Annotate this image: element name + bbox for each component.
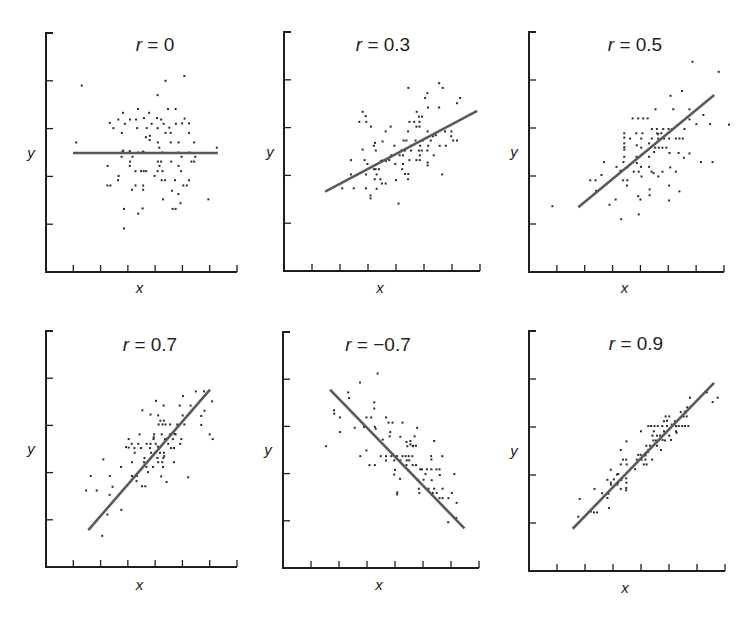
data-point bbox=[125, 446, 127, 448]
data-point bbox=[662, 439, 664, 441]
data-point bbox=[664, 439, 666, 441]
panel-title: r = −0.7 bbox=[345, 334, 411, 355]
data-point bbox=[439, 145, 441, 147]
data-point bbox=[135, 119, 137, 121]
data-point bbox=[207, 198, 209, 200]
data-point bbox=[156, 457, 158, 459]
data-point bbox=[129, 165, 131, 167]
data-point bbox=[577, 516, 579, 518]
data-point bbox=[156, 117, 158, 119]
data-point bbox=[165, 132, 167, 134]
data-point bbox=[394, 469, 396, 471]
data-point bbox=[134, 184, 136, 186]
data-point bbox=[644, 459, 646, 461]
data-point bbox=[168, 127, 170, 129]
data-point bbox=[681, 425, 683, 427]
data-point bbox=[606, 497, 608, 499]
data-point bbox=[688, 118, 690, 120]
data-point bbox=[663, 420, 665, 422]
data-point bbox=[681, 90, 683, 92]
data-point bbox=[665, 147, 667, 149]
data-point bbox=[194, 156, 196, 158]
data-point bbox=[653, 172, 655, 174]
data-point bbox=[146, 127, 148, 129]
data-point bbox=[145, 136, 147, 138]
data-point bbox=[444, 130, 446, 132]
data-point bbox=[675, 425, 677, 427]
data-point bbox=[157, 414, 159, 416]
data-point bbox=[145, 170, 147, 172]
data-point bbox=[441, 173, 443, 175]
data-point bbox=[134, 452, 136, 454]
scatter-panel: r = 0yx bbox=[26, 33, 237, 296]
data-point bbox=[188, 132, 190, 134]
data-point bbox=[638, 213, 640, 215]
data-point bbox=[450, 130, 452, 132]
data-point bbox=[353, 187, 355, 189]
data-point bbox=[459, 97, 461, 99]
data-point bbox=[160, 475, 162, 477]
data-point bbox=[181, 156, 183, 158]
data-point bbox=[686, 415, 688, 417]
data-point bbox=[402, 154, 404, 156]
data-point bbox=[163, 405, 165, 407]
data-point bbox=[642, 117, 644, 119]
data-point bbox=[452, 140, 454, 142]
data-point bbox=[661, 171, 663, 173]
data-point bbox=[348, 397, 350, 399]
data-point bbox=[143, 461, 145, 463]
data-point bbox=[157, 461, 159, 463]
data-point bbox=[394, 163, 396, 165]
data-point bbox=[668, 185, 670, 187]
data-point bbox=[405, 441, 407, 443]
data-point bbox=[390, 126, 392, 128]
axes-frame bbox=[529, 32, 724, 272]
data-point bbox=[157, 141, 159, 143]
data-point bbox=[620, 449, 622, 451]
data-point bbox=[426, 468, 428, 470]
data-point bbox=[637, 117, 639, 119]
data-point bbox=[155, 400, 157, 402]
data-point bbox=[211, 400, 213, 402]
data-point bbox=[183, 75, 185, 77]
data-point bbox=[626, 179, 628, 181]
data-point bbox=[389, 431, 391, 433]
data-point bbox=[669, 166, 671, 168]
data-point bbox=[682, 138, 684, 140]
data-point bbox=[354, 427, 356, 429]
data-point bbox=[656, 445, 658, 447]
data-point bbox=[456, 102, 458, 104]
data-point bbox=[594, 488, 596, 490]
data-point bbox=[190, 405, 192, 407]
data-point bbox=[378, 168, 380, 170]
data-point bbox=[623, 132, 625, 134]
data-point bbox=[415, 140, 417, 142]
data-point bbox=[687, 425, 689, 427]
data-point bbox=[450, 135, 452, 137]
data-point bbox=[412, 445, 414, 447]
data-point bbox=[402, 163, 404, 165]
data-point bbox=[629, 138, 631, 140]
data-point bbox=[406, 459, 408, 461]
y-axis-label: y bbox=[26, 440, 36, 457]
data-point bbox=[702, 114, 704, 116]
data-point bbox=[153, 436, 155, 438]
data-point bbox=[626, 185, 628, 187]
data-point bbox=[180, 438, 182, 440]
data-point bbox=[430, 140, 432, 142]
data-point bbox=[109, 475, 111, 477]
data-point bbox=[636, 162, 638, 164]
data-point bbox=[161, 461, 163, 463]
data-point bbox=[380, 455, 382, 457]
data-point bbox=[430, 458, 432, 460]
data-point bbox=[382, 439, 384, 441]
data-point bbox=[408, 121, 410, 123]
y-axis-label: y bbox=[509, 143, 519, 160]
data-point bbox=[106, 184, 108, 186]
data-point bbox=[162, 170, 164, 172]
data-point bbox=[134, 170, 136, 172]
data-point bbox=[373, 407, 375, 409]
data-point bbox=[418, 488, 420, 490]
data-point bbox=[379, 178, 381, 180]
data-point bbox=[109, 122, 111, 124]
